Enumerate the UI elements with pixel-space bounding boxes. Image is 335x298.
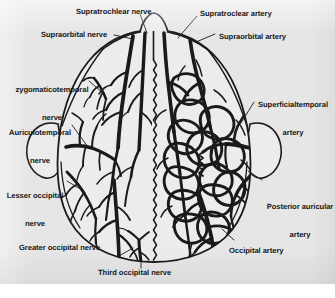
label-supratroclear-artery: Supratroclear artery	[200, 9, 272, 18]
label-zygomaticotemporal-nerve-line1: zygomaticotemporal	[14, 85, 90, 94]
label-posterior-auricular-artery-line2: artery	[264, 230, 335, 239]
label-superficialtemporal-artery: Superficialtemporal artery	[253, 82, 333, 156]
label-superficialtemporal-artery-line1: Superficialtemporal	[253, 100, 333, 109]
anatomy-figure-panel: Supratrochlear nerve Supraorbital nerve …	[0, 0, 335, 284]
label-lesser-occipital-nerve: Lesser occipital nerve	[3, 173, 67, 247]
leader-supratroclear-artery	[178, 16, 197, 38]
label-posterior-auricular-artery-line1: Posterior auricular	[264, 202, 335, 211]
label-superficialtemporal-artery-line2: artery	[253, 128, 333, 137]
label-auriculotemporal-nerve-line2: nerve	[6, 156, 74, 165]
label-supraorbital-artery: Supraorbital artery	[219, 32, 286, 41]
label-lesser-occipital-nerve-line2: nerve	[3, 219, 67, 228]
leader-supraorbital-artery	[196, 34, 215, 42]
label-greater-occipital-nerve: Greater occipital nerve	[19, 243, 100, 252]
label-third-occipital-nerve: Third occipital nerve	[98, 268, 171, 277]
label-lesser-occipital-nerve-line1: Lesser occipital	[3, 191, 67, 200]
label-supraorbital-nerve: Supraorbital nerve	[41, 30, 107, 39]
label-occipital-artery: Occipital artery	[229, 246, 284, 255]
label-supratrochlear-nerve: Supratrochlear nerve	[76, 7, 151, 16]
label-auriculotemporal-nerve-line1: Auriculotemporal	[6, 128, 74, 137]
